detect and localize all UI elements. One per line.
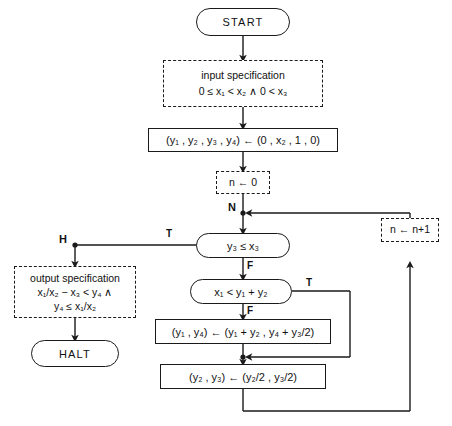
outer-decision-false-label: F (247, 260, 253, 271)
output-specification-box[interactable]: output specification x₁/x₂ − x₃ < y₄ ∧ y… (14, 266, 136, 318)
assign-y1-y4-box[interactable]: (y₁ , y₄) ← (y₁ + y₂ , y₄ + y₃/2) (155, 319, 331, 344)
output-specification-formula-line2: y₄ ≤ x₁/x₂ (54, 299, 96, 313)
counter-increment-box[interactable]: n ← n+1 (381, 218, 439, 242)
decision-x1-lt-y1-plus-y2-formula: x₁ < y₁ + y₂ (214, 286, 267, 298)
initial-assignment-box[interactable]: (y₁ , y₂ , y₃ , y₄) ← (0 , x₂ , 1 , 0) (148, 128, 338, 152)
decision-y3-le-x3[interactable]: y₃ ≤ x₃ (196, 233, 290, 258)
start-terminal[interactable]: START (196, 8, 290, 36)
inner-decision-false-label: F (247, 305, 253, 316)
inner-decision-true-label: T (306, 277, 312, 288)
input-specification-box[interactable]: input specification 0 ≤ x₁ < x₂ ∧ 0 < x₃ (163, 60, 323, 107)
assign-y2-y3-formula: (y₂ , y₃) ← (y₂/2 , y₃/2) (189, 371, 297, 383)
flowchart-canvas: START input specification 0 ≤ x₁ < x₂ ∧ … (0, 0, 452, 426)
outer-decision-true-label: T (166, 228, 172, 239)
input-specification-formula: 0 ≤ x₁ < x₂ ∧ 0 < x₃ (199, 84, 288, 100)
counter-increment-formula: n ← n+1 (390, 222, 430, 237)
assign-y1-y4-formula: (y₁ , y₄) ← (y₁ + y₂ , y₄ + y₃/2) (172, 326, 315, 338)
halt-terminal[interactable]: HALT (31, 340, 119, 367)
input-specification-title: input specification (201, 68, 284, 84)
loop-invariant-label-n: N (228, 201, 236, 213)
output-specification-formula-line1: x₁/x₂ − x₃ < y₄ ∧ (38, 285, 113, 299)
halt-label: HALT (59, 348, 91, 360)
decision-y3-le-x3-formula: y₃ ≤ x₃ (227, 240, 259, 252)
decision-x1-lt-y1-plus-y2[interactable]: x₁ < y₁ + y₂ (190, 279, 292, 304)
counter-init-formula: n ← 0 (229, 175, 257, 190)
assign-y2-y3-box[interactable]: (y₂ , y₃) ← (y₂/2 , y₃/2) (160, 364, 326, 389)
halt-point-label-h: H (59, 233, 67, 245)
initial-assignment-formula: (y₁ , y₂ , y₃ , y₄) ← (0 , x₂ , 1 , 0) (166, 134, 320, 146)
start-label: START (222, 16, 263, 28)
counter-init-box[interactable]: n ← 0 (216, 171, 270, 194)
output-specification-title: output specification (30, 271, 120, 285)
